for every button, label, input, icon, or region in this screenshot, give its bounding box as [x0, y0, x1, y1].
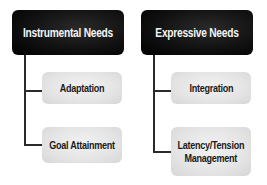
instrumental-needs-header: Instrumental Needs	[12, 10, 124, 55]
instrumental-needs-label: Instrumental Needs	[23, 26, 113, 40]
latency-tension-management-node: Latency/Tension Management	[171, 127, 251, 176]
goal-attainment-node: Goal Attainment	[42, 127, 122, 163]
integration-label: Integration	[189, 82, 233, 95]
expressive-needs-header: Expressive Needs	[141, 10, 253, 55]
expressive-needs-label: Expressive Needs	[155, 26, 238, 40]
connector-left-goal	[24, 144, 42, 146]
connector-right-latency	[153, 151, 171, 153]
adaptation-node: Adaptation	[42, 72, 122, 104]
connector-left-adaptation	[24, 90, 42, 92]
goal-attainment-label: Goal Attainment	[49, 139, 115, 152]
connector-right-vertical	[153, 55, 155, 153]
latency-tension-management-label: Latency/Tension Management	[178, 139, 245, 165]
adaptation-label: Adaptation	[60, 82, 105, 95]
connector-left-vertical	[24, 55, 26, 146]
connector-right-integration	[153, 90, 171, 92]
integration-node: Integration	[171, 72, 251, 104]
